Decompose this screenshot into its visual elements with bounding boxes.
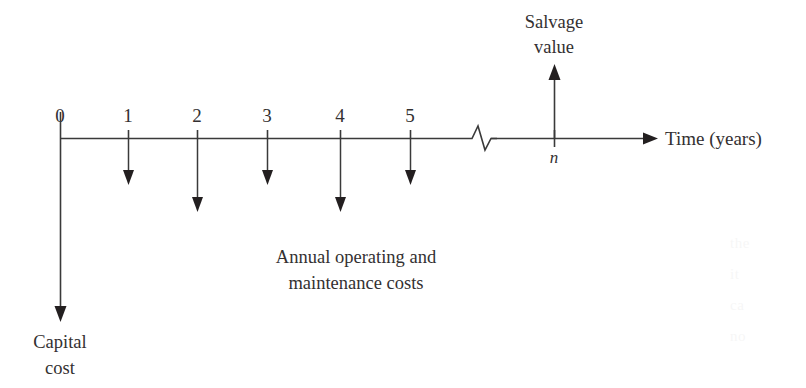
operating-cost-arrow-2-head-icon — [192, 197, 203, 212]
salvage-value-caption-line1: Salvage — [525, 12, 584, 32]
tick-label-1: 1 — [123, 105, 133, 126]
cash-flow-diagram: Time (years) 0 1 2 3 4 5 n — [0, 0, 806, 388]
salvage-value-arrow — [549, 64, 561, 139]
capital-cost-caption-line1: Capital — [33, 332, 86, 352]
tick-label-5: 5 — [405, 105, 415, 126]
time-axis-arrowhead-icon — [643, 133, 658, 145]
operating-cost-arrow-5 — [405, 139, 416, 186]
salvage-value-caption-line2: value — [534, 37, 574, 57]
time-axis-caption: Time (years) — [665, 128, 762, 150]
capital-cost-arrow — [55, 112, 67, 322]
tick-label-2: 2 — [192, 105, 202, 126]
tick-label-4: 4 — [335, 105, 345, 126]
tick-label-n: n — [550, 148, 559, 167]
operating-cost-arrow-4 — [335, 139, 346, 213]
capital-cost-caption: Capital cost — [33, 332, 86, 378]
cash-flow-canvas: Time (years) 0 1 2 3 4 5 n — [0, 0, 806, 388]
operating-cost-arrow-1-head-icon — [123, 170, 134, 185]
axis-tick-labels-group: 0 1 2 3 4 5 n — [55, 105, 558, 167]
operating-cost-caption-line1: Annual operating and — [276, 247, 437, 267]
tick-label-3: 3 — [262, 105, 272, 126]
operating-cost-arrow-5-head-icon — [405, 170, 416, 185]
operating-cost-caption-line2: maintenance costs — [288, 273, 423, 293]
operating-cost-arrows-group — [123, 139, 416, 213]
operating-cost-arrow-3 — [262, 139, 273, 186]
operating-cost-arrow-1 — [123, 139, 134, 186]
capital-cost-arrowhead-icon — [55, 306, 67, 322]
salvage-value-arrowhead-icon — [549, 64, 561, 80]
operating-cost-arrow-2 — [192, 139, 203, 213]
salvage-value-caption: Salvage value — [525, 12, 584, 57]
capital-cost-caption-line2: cost — [45, 358, 76, 378]
operating-cost-arrow-4-head-icon — [335, 197, 346, 212]
operating-cost-caption: Annual operating and maintenance costs — [276, 247, 437, 293]
operating-cost-arrow-3-head-icon — [262, 170, 273, 185]
